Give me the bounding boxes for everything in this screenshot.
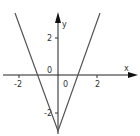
x-axis-arrow-icon [128,72,138,78]
x-tick-label-neg2: -2 [14,80,22,89]
y-axis-label: y [62,20,67,29]
x-axis-label: x [124,64,129,73]
function-graph: x y -2 2 2 -2 0 0 [0,0,140,136]
y-tick-label-2: 2 [47,34,52,43]
y-axis-arrow-icon [55,12,61,23]
origin-label-upper: 0 [47,66,52,75]
origin-label-lower: 0 [63,80,68,89]
x-tick-label-2: 2 [95,80,100,89]
